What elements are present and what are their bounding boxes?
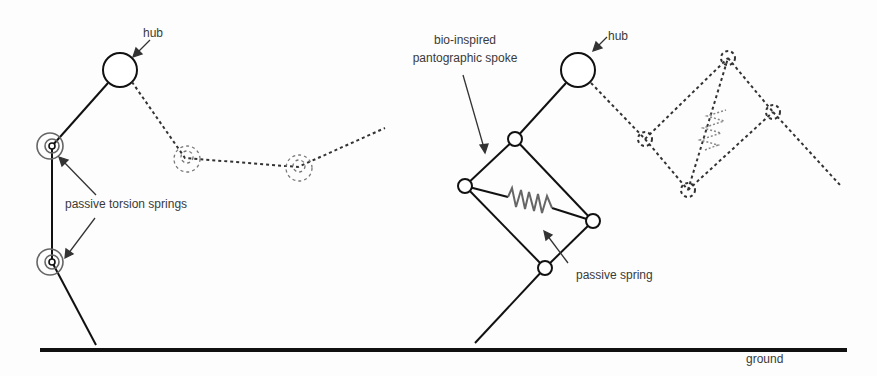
hub-label-right: hub: [608, 29, 628, 43]
passive-spring-zigzag: [508, 188, 552, 213]
torsion-spring-lower: [37, 249, 63, 275]
dashed-spring-zigzag: [700, 110, 726, 150]
torsion-spring-upper: [37, 133, 63, 159]
hub-label-left: hub: [143, 26, 163, 40]
right-dashed-spoke: [591, 51, 840, 197]
spoke-label-line2: pantographic spoke: [395, 51, 535, 65]
diagram-canvas: hub passive torsion springs hub bio-insp…: [0, 0, 877, 376]
left-hub: [103, 53, 137, 87]
torsion-springs-label: passive torsion springs: [65, 197, 187, 211]
right-hub: [561, 53, 595, 87]
ground-label: ground: [746, 352, 783, 366]
left-dashed-spoke: [132, 82, 385, 181]
passive-spring-label: passive spring: [576, 268, 653, 282]
spoke-label-line1: bio-inspired: [415, 33, 515, 47]
